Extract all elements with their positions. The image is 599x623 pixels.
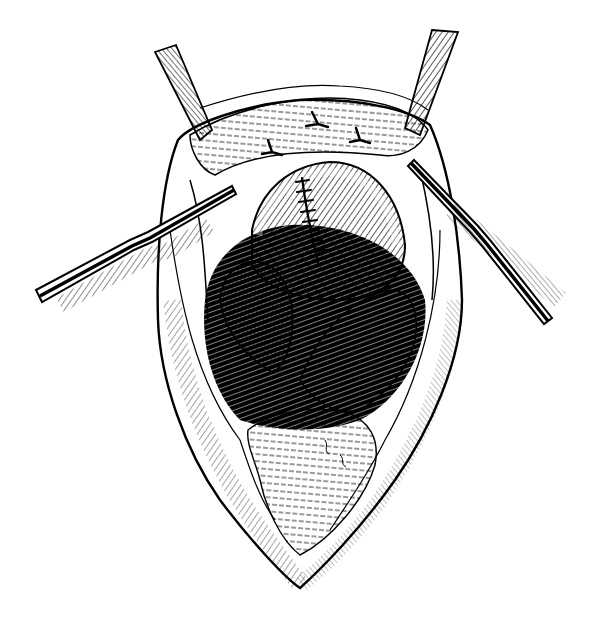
left-upper-retractor-blade xyxy=(155,45,212,140)
surgical-illustration xyxy=(0,0,599,623)
right-upper-retractor-blade xyxy=(405,30,458,135)
